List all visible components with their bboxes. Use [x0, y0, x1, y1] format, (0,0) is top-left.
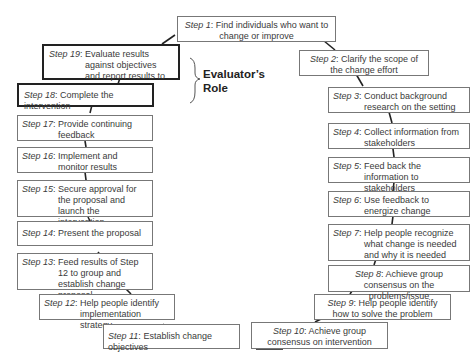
- step-2-label: Step 2: [310, 54, 336, 64]
- role-line-2: Role: [203, 81, 265, 95]
- step-11-box: Step 11: Establish change objectives: [103, 324, 240, 349]
- step-19-label: Step 19: [49, 49, 80, 59]
- step-18-box: Step 18: Complete the intervention: [17, 83, 154, 107]
- step-7-text: Help people recognize what change is nee…: [364, 228, 465, 261]
- step-13-box: Step 13: Feed results of Step 12 to grou…: [17, 253, 153, 290]
- step-14-box: Step 14: Present the proposal: [17, 221, 153, 246]
- step-7-label: Step 7: [333, 228, 359, 238]
- step-14-text: Present the proposal: [58, 228, 141, 238]
- step-6-box: Step 6: Use feedback to energize change: [328, 191, 470, 217]
- step-3-box: Step 3: Conduct background research on t…: [328, 87, 470, 113]
- brace-icon: [190, 58, 200, 103]
- step-8-label: Step 8: [355, 269, 381, 279]
- step-7-box: Step 7: Help people recognize what chang…: [328, 224, 470, 261]
- step-5-text: Feed back the information to stakeholder…: [364, 161, 465, 194]
- step-3-text: Conduct background research on the setti…: [364, 91, 465, 113]
- role-line-1: Evaluator’s: [203, 67, 265, 81]
- step-3-label: Step 3: [333, 91, 359, 101]
- step-4-text: Collect information from stakeholders: [364, 127, 465, 149]
- step-16-label: Step 16: [22, 151, 53, 161]
- step-6-label: Step 6: [333, 195, 359, 205]
- step-9-label: Step 9: [327, 298, 353, 308]
- step-10-box: Step 10: Achieve group consensus on inte…: [251, 322, 388, 349]
- step-17-box: Step 17: Provide continuing feedback: [17, 115, 153, 141]
- step-19-box: Step 19: Evaluate results against object…: [42, 44, 180, 80]
- evaluator-role-label: Evaluator’s Role: [203, 67, 265, 95]
- step-2-box: Step 2: Clarify the scope of the change …: [299, 50, 429, 76]
- step-17-label: Step 17: [22, 119, 53, 129]
- step-1-box: Step 1: Find individuals who want to cha…: [177, 16, 336, 42]
- step-1-label: Step 1: [185, 20, 211, 30]
- step-13-label: Step 13: [22, 257, 53, 267]
- step-8-box: Step 8: Achieve group consensus on the p…: [328, 265, 470, 292]
- step-12-box: Step 12: Help people identify implementa…: [39, 294, 175, 320]
- step-10-label: Step 10: [273, 326, 304, 336]
- step-5-label: Step 5: [333, 161, 359, 171]
- step-14-label: Step 14: [22, 228, 53, 238]
- step-11-label: Step 11: [108, 331, 138, 341]
- step-4-label: Step 4: [333, 127, 359, 137]
- step-15-label: Step 15: [22, 184, 53, 194]
- step-2-text: Clarify the scope of the change effort: [330, 54, 418, 75]
- step-15-box: Step 15: Secure approval for the proposa…: [17, 180, 153, 217]
- step-16-text: Implement and monitor results: [58, 151, 148, 173]
- step-16-box: Step 16: Implement and monitor results: [17, 147, 153, 173]
- step-5-box: Step 5: Feed back the information to sta…: [328, 157, 470, 183]
- step-17-text: Provide continuing feedback: [58, 119, 148, 141]
- step-6-text: Use feedback to energize change: [364, 195, 465, 217]
- step-1-text: Find individuals who want to change or i…: [216, 20, 329, 41]
- step-4-box: Step 4: Collect information from stakeho…: [328, 123, 470, 149]
- step-18-label: Step 18: [24, 90, 55, 100]
- step-12-label: Step 12: [44, 298, 75, 308]
